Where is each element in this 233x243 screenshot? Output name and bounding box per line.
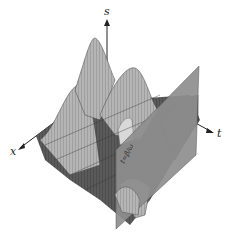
x-axis-label: x: [10, 145, 17, 158]
surface-plot: t=β/ω s x t: [0, 0, 233, 243]
s-axis-label: s: [104, 5, 110, 18]
t-axis-label: t: [217, 127, 222, 140]
